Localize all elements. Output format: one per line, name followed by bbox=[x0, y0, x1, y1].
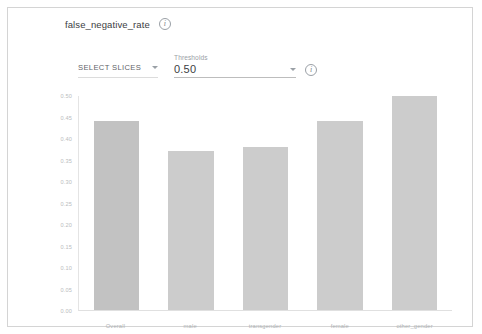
bar-chart: 0.500.450.400.350.300.250.200.150.100.05… bbox=[48, 96, 468, 328]
bar-other_gender[interactable] bbox=[392, 96, 437, 310]
plot-area bbox=[78, 96, 452, 311]
x-axis-slot: other_gender bbox=[379, 314, 450, 332]
bars-container bbox=[79, 96, 452, 310]
y-axis-tick: 0.40 bbox=[61, 136, 73, 142]
y-axis: 0.500.450.400.350.300.250.200.150.100.05… bbox=[48, 96, 76, 311]
x-axis-slot: female bbox=[304, 314, 375, 332]
y-axis-tick: 0.00 bbox=[61, 308, 73, 314]
thresholds-value: 0.50 bbox=[174, 63, 196, 75]
y-axis-tick: 0.05 bbox=[61, 287, 73, 293]
y-axis-tick: 0.45 bbox=[61, 115, 73, 121]
y-axis-tick: 0.30 bbox=[61, 179, 73, 185]
controls-bar: SELECT SLICES Thresholds 0.50 i bbox=[78, 54, 317, 78]
y-axis-tick: 0.20 bbox=[61, 222, 73, 228]
page-title: false_negative_rate bbox=[65, 19, 150, 30]
bar-slot bbox=[155, 96, 226, 310]
bar-Overall[interactable] bbox=[94, 121, 139, 310]
x-axis-label: Overall bbox=[106, 323, 125, 329]
bar-slot bbox=[230, 96, 301, 310]
select-slices-dropdown[interactable]: SELECT SLICES bbox=[78, 63, 158, 78]
thresholds-select[interactable]: 0.50 bbox=[174, 63, 296, 78]
x-axis-label: female bbox=[331, 323, 349, 329]
bar-slot bbox=[305, 96, 376, 310]
thresholds-label: Thresholds bbox=[174, 54, 296, 61]
chevron-down-icon bbox=[290, 68, 296, 71]
x-axis-label: male bbox=[184, 323, 197, 329]
threshold-group: Thresholds 0.50 i bbox=[174, 54, 317, 78]
thresholds-field: Thresholds 0.50 bbox=[174, 54, 296, 78]
bar-male[interactable] bbox=[168, 151, 213, 310]
metric-card: false_negative_rate i SELECT SLICES Thre… bbox=[7, 7, 473, 327]
y-axis-tick: 0.10 bbox=[61, 265, 73, 271]
x-axis-slot: Overall bbox=[80, 314, 151, 332]
x-axis-label: transgender bbox=[249, 323, 282, 329]
y-axis-tick: 0.15 bbox=[61, 244, 73, 250]
x-axis-slot: transgender bbox=[229, 314, 300, 332]
chevron-down-icon bbox=[152, 66, 158, 69]
bar-female[interactable] bbox=[317, 121, 362, 310]
x-axis-slot: male bbox=[155, 314, 226, 332]
select-slices-label: SELECT SLICES bbox=[78, 63, 141, 72]
metric-info-icon[interactable]: i bbox=[159, 18, 171, 30]
y-axis-tick: 0.35 bbox=[61, 158, 73, 164]
bar-transgender[interactable] bbox=[243, 147, 288, 310]
thresholds-info-icon[interactable]: i bbox=[305, 64, 317, 76]
y-axis-tick: 0.50 bbox=[61, 93, 73, 99]
metric-header: false_negative_rate i bbox=[65, 18, 171, 30]
x-axis-label: other_gender bbox=[396, 323, 432, 329]
screenshot-root: false_negative_rate i SELECT SLICES Thre… bbox=[0, 0, 482, 334]
bar-slot bbox=[81, 96, 152, 310]
y-axis-tick: 0.25 bbox=[61, 201, 73, 207]
x-axis: Overallmaletransgenderfemaleother_gender bbox=[78, 314, 452, 332]
bar-slot bbox=[379, 96, 450, 310]
